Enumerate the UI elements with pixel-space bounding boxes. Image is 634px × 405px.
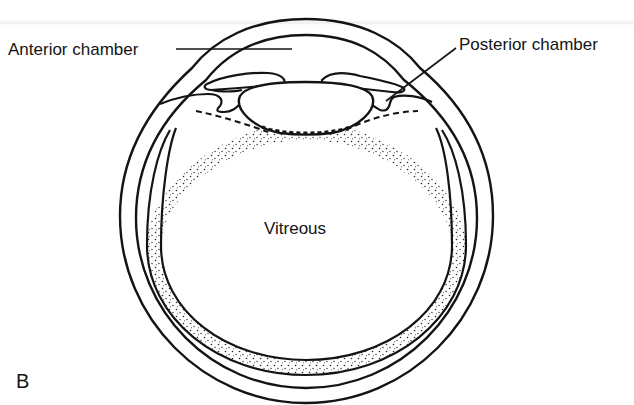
ciliary-body-left bbox=[160, 90, 242, 112]
lens bbox=[239, 82, 373, 135]
panel-label: B bbox=[16, 371, 29, 391]
label-anterior-chamber: Anterior chamber bbox=[8, 41, 138, 58]
label-vitreous: Vitreous bbox=[264, 220, 326, 237]
eye-cross-section bbox=[0, 0, 634, 405]
label-posterior-chamber: Posterior chamber bbox=[459, 36, 598, 53]
ciliary-body-right bbox=[370, 96, 432, 111]
eye-diagram: Anterior chamber Posterior chamber Vitre… bbox=[0, 0, 634, 405]
sclera-outer bbox=[120, 19, 493, 403]
